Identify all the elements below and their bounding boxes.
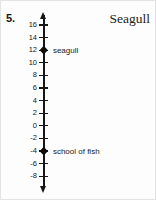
tick <box>39 113 48 114</box>
tick-label: 10 <box>1 59 37 67</box>
tick-label: -2 <box>1 134 37 142</box>
tick <box>39 100 48 101</box>
tick-label: 8 <box>1 71 37 79</box>
tick <box>39 87 48 88</box>
tick <box>39 163 48 164</box>
tick <box>39 125 48 126</box>
tick <box>39 176 48 177</box>
tick <box>39 75 48 76</box>
number-line: 1614121086420-2-4-6-8seagullschool of fi… <box>1 1 156 200</box>
tick-label: 12 <box>1 46 37 54</box>
tick-label: -8 <box>1 172 37 180</box>
point-marker <box>40 147 48 155</box>
tick-label: 4 <box>1 97 37 105</box>
tick-label: -6 <box>1 160 37 168</box>
tick <box>39 62 48 63</box>
tick-label: -4 <box>1 147 37 155</box>
worksheet-page: 5. Seagull 1614121086420-2-4-6-8seagulls… <box>0 0 156 200</box>
tick-label: 2 <box>1 109 37 117</box>
tick <box>39 37 48 38</box>
axis-arrow-up-icon <box>40 12 46 19</box>
point-marker <box>40 46 48 54</box>
tick-label: 6 <box>1 84 37 92</box>
tick-label: 14 <box>1 34 37 42</box>
tick-label: 0 <box>1 122 37 130</box>
tick-label: 16 <box>1 21 37 29</box>
point-label: school of fish <box>53 147 100 156</box>
point-label: seagull <box>53 46 78 55</box>
tick <box>39 138 48 139</box>
axis-arrow-down-icon <box>40 186 46 193</box>
tick <box>39 24 48 25</box>
